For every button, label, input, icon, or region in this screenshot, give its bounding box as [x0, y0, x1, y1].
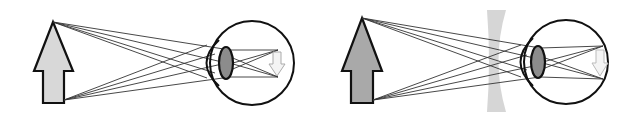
inverted-image-icon [592, 50, 608, 76]
light-rays [362, 18, 603, 100]
eye-lens [531, 46, 545, 78]
panel-corrected [342, 10, 608, 112]
diagram-canvas [0, 0, 633, 132]
concave-lens-icon [487, 10, 506, 112]
object-arrow-icon [342, 18, 382, 103]
diagram-title: Myopia and correction with a concave len… [0, 0, 21, 1]
light-rays [53, 22, 278, 100]
object-arrow-icon [34, 22, 73, 103]
eye-lens [219, 47, 233, 79]
panel-uncorrected [34, 21, 294, 105]
myopia-diagram: Myopia and correction with a concave len… [0, 0, 633, 132]
inverted-image-icon [269, 52, 285, 76]
